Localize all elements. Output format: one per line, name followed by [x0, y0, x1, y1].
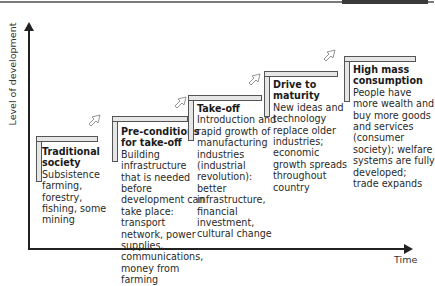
stage-description: New ideas and technology replace older i…: [273, 102, 355, 193]
x-axis-label: Time: [394, 254, 417, 265]
stage-bracket-top: [188, 95, 262, 101]
top-corner-block: [342, 0, 428, 4]
stage-bracket-left: [188, 101, 194, 141]
stage-bracket-top: [36, 136, 98, 142]
x-axis-arrowhead-icon: [404, 244, 413, 254]
stage-bracket-left: [344, 62, 350, 102]
stage-title: Drive to maturity: [273, 79, 355, 102]
step-up-arrow-icon: [323, 49, 337, 61]
stage-text: Traditional society Subsistence farming,…: [42, 146, 118, 226]
y-axis: [28, 28, 30, 249]
stage-description: People have more wealth and buy more goo…: [353, 87, 435, 190]
stage-description: Building infrastructure that is needed b…: [121, 149, 207, 286]
stage-text: Drive to maturity New ideas and technolo…: [273, 79, 355, 193]
y-axis-label: Level of development: [7, 26, 18, 126]
stage-description: Subsistence farming, forestry, fishing, …: [42, 169, 118, 226]
step-up-arrow-icon: [88, 114, 102, 126]
stage-bracket-top: [344, 56, 416, 62]
x-axis: [28, 248, 406, 250]
stage-text: Pre-conditions for take-off Building inf…: [121, 126, 207, 286]
stage-text: High mass consumption People have more w…: [353, 64, 435, 189]
stage-title: Pre-conditions for take-off: [121, 126, 207, 149]
stage-title: High mass consumption: [353, 64, 435, 87]
step-up-arrow-icon: [248, 73, 262, 85]
stage-title: Traditional society: [42, 146, 118, 169]
stage-bracket-left: [264, 77, 270, 117]
stage-bracket-top: [112, 116, 188, 122]
stage-description: Introduction and rapid growth of manufac…: [197, 114, 279, 239]
stage-bracket-top: [264, 71, 338, 77]
step-up-arrow-icon: [174, 96, 188, 108]
y-axis-arrowhead-icon: [24, 22, 34, 31]
stage-text: Take-off Introduction and rapid growth o…: [197, 103, 279, 240]
stage-bracket-left: [112, 122, 118, 162]
